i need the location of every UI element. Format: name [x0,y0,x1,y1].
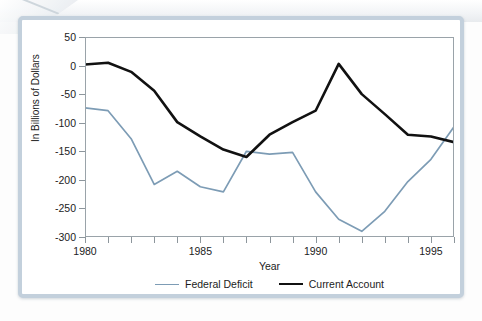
x-tick-label: 1995 [419,245,442,257]
x-tick [131,237,132,243]
x-tick [200,237,201,243]
x-tick [454,237,455,243]
y-tick [79,66,85,67]
x-tick-label: 1985 [189,245,212,257]
legend-swatch-line-icon [279,283,303,285]
x-tick [385,237,386,243]
y-tick [79,208,85,209]
x-tick [246,237,247,243]
y-tick [79,151,85,152]
x-tick [293,237,294,243]
x-tick [339,237,340,243]
x-tick [270,237,271,243]
legend-swatch-line-icon [155,284,179,285]
y-tick [79,123,85,124]
y-tick [79,180,85,181]
x-tick [85,237,86,243]
x-tick-label: 1990 [304,245,327,257]
x-tick [431,237,432,243]
x-tick [223,237,224,243]
x-axis-title: Year [85,260,454,272]
scanned-page-background: Account for the U.S., 1980-1996 In Billi… [0,0,482,321]
chart-frame: In Billions of Dollars 500-50-100-150-20… [18,16,464,298]
plot-area: 500-50-100-150-200-250-300 1980198519901… [85,37,454,237]
legend-item: Federal Deficit [155,278,253,290]
legend-item: Current Account [279,278,384,290]
y-tick-label: 0 [70,60,76,72]
y-tick-label: -100 [55,117,76,129]
x-tick [177,237,178,243]
y-tick-label: -300 [55,231,76,243]
x-tick [154,237,155,243]
x-tick [316,237,317,243]
legend-label: Federal Deficit [185,278,253,290]
x-tick-label: 1980 [73,245,96,257]
y-tick-label: -150 [55,145,76,157]
plot-border [85,37,454,237]
chart-legend: Federal DeficitCurrent Account [85,278,454,290]
y-tick-label: -250 [55,202,76,214]
x-tick [408,237,409,243]
y-tick [79,94,85,95]
x-tick [108,237,109,243]
y-tick-label: -200 [55,174,76,186]
y-tick-label: 50 [64,31,76,43]
y-tick-label: -50 [61,88,76,100]
legend-label: Current Account [309,278,384,290]
y-tick [79,37,85,38]
x-tick [362,237,363,243]
y-axis-title: In Billions of Dollars [30,54,41,142]
